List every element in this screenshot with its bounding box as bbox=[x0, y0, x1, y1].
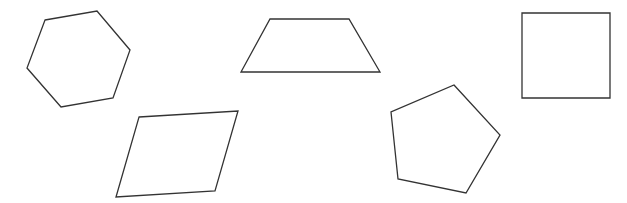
parallelogram-shape bbox=[116, 111, 238, 197]
pentagon-shape bbox=[391, 85, 500, 193]
trapezoid-shape bbox=[241, 19, 380, 72]
hexagon-shape bbox=[27, 11, 130, 107]
shapes-canvas bbox=[0, 0, 627, 203]
square-shape bbox=[522, 13, 610, 98]
